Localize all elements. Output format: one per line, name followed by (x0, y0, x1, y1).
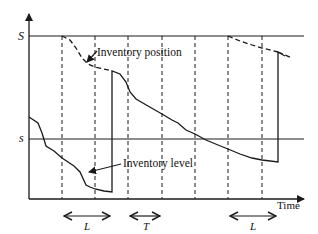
inventory-level-label: Inventory level (123, 157, 193, 170)
inventory-diagram: S s Inventory position Inventory level T… (0, 0, 318, 234)
reorder-point-label: s (19, 131, 24, 145)
inventory-level-curve (29, 52, 285, 192)
review-period-gridlines (62, 36, 262, 199)
inventory-position-curve-2 (228, 36, 278, 52)
inventory-position-curve-3 (278, 52, 292, 58)
review-period-label: T (143, 220, 150, 232)
inventory-level-pointer (89, 164, 121, 172)
inventory-position-label: Inventory position (97, 46, 182, 59)
order-up-to-level-label: S (18, 29, 24, 43)
lead-time-label-1: L (83, 220, 90, 232)
x-axis-label: Time (277, 199, 300, 211)
lead-time-label-2: L (249, 220, 256, 232)
